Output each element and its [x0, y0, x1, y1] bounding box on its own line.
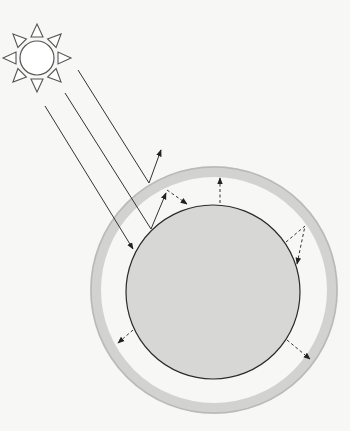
sun-ray-triangle — [31, 24, 43, 37]
greenhouse-effect-diagram — [0, 0, 350, 431]
surface-emission-arrow-lower-left — [118, 330, 133, 343]
incoming-ray-absorbed — [45, 106, 133, 249]
planet-surface — [126, 205, 300, 379]
sun-icon — [3, 24, 71, 92]
sun-ray-triangle — [48, 34, 61, 47]
incoming-ray-reflected-by-atmosphere — [78, 70, 149, 183]
atmosphere-reflection-arrow — [149, 150, 161, 183]
planet — [126, 205, 300, 379]
diagram-svg — [0, 0, 350, 431]
sun-ray-triangle — [58, 52, 71, 64]
sun-ray-triangle — [31, 79, 43, 92]
sun-ray-triangle — [13, 69, 26, 82]
sun-disc — [20, 41, 54, 75]
sun-ray-triangle — [3, 52, 16, 64]
sun-ray-triangle — [48, 69, 61, 82]
sun-ray-triangle — [13, 34, 26, 47]
back-radiation-arrow — [167, 190, 187, 204]
